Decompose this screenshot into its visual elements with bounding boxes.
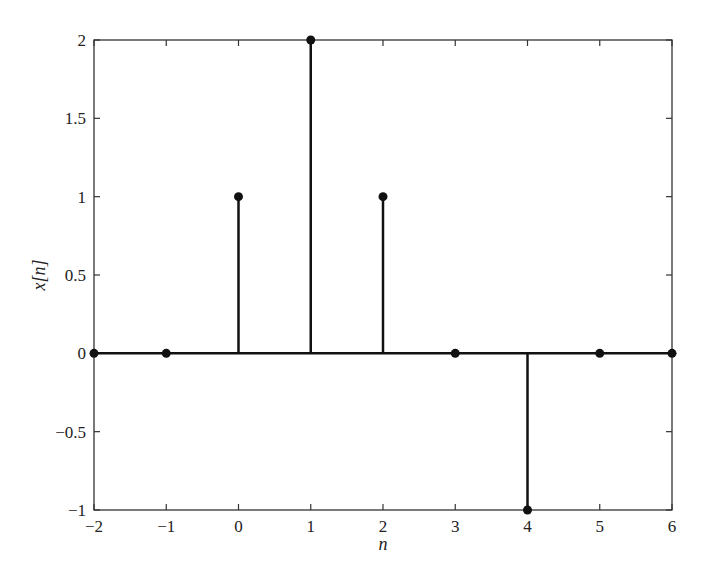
stem-marker bbox=[90, 349, 99, 358]
stem-marker bbox=[306, 36, 315, 45]
stem-marker bbox=[379, 192, 388, 201]
stem-marker bbox=[595, 349, 604, 358]
y-tick-label: 0.5 bbox=[65, 266, 86, 285]
x-tick-label: 1 bbox=[307, 517, 316, 536]
x-axis-label: n bbox=[379, 534, 388, 554]
y-tick-label: 2 bbox=[78, 31, 87, 50]
y-tick-label: 1 bbox=[78, 188, 87, 207]
stem-plot: −2−10123456−1−0.500.511.52 n x[n] bbox=[0, 0, 702, 586]
x-tick-label: 6 bbox=[668, 517, 677, 536]
y-tick-label: −1 bbox=[68, 501, 86, 520]
x-tick-label: −2 bbox=[85, 517, 103, 536]
y-tick-label: 0 bbox=[78, 344, 87, 363]
x-tick-label: −1 bbox=[157, 517, 175, 536]
x-tick-label: 4 bbox=[523, 517, 532, 536]
x-tick-label: 0 bbox=[234, 517, 243, 536]
stem-marker bbox=[523, 506, 532, 515]
x-tick-label: 3 bbox=[451, 517, 460, 536]
stem-marker bbox=[162, 349, 171, 358]
stem-marker bbox=[451, 349, 460, 358]
stem-marker bbox=[668, 349, 677, 358]
y-axis-label: x[n] bbox=[29, 260, 49, 292]
stem-marker bbox=[234, 192, 243, 201]
y-tick-label: 1.5 bbox=[65, 109, 86, 128]
x-tick-label: 5 bbox=[596, 517, 605, 536]
y-tick-label: −0.5 bbox=[55, 423, 86, 442]
